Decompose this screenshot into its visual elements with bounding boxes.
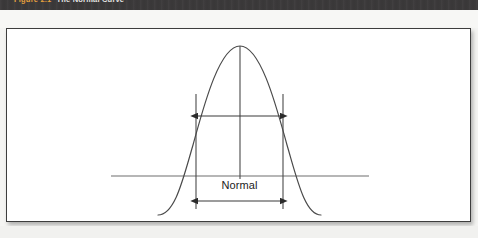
figure-panel: Normal <box>6 28 471 222</box>
figure-number-label: Figure 2.1 <box>14 0 51 4</box>
normal-region-label: Normal <box>221 179 257 191</box>
figure-title-label: The Normal Curve <box>56 0 124 4</box>
page-background: Figure 2.1The Normal Curve <box>0 0 478 238</box>
caption-bar-gap <box>0 10 478 28</box>
normal-curve-diagram <box>7 29 472 223</box>
figure-caption-text: Figure 2.1The Normal Curve <box>14 0 124 7</box>
page-bottom-band <box>0 226 478 238</box>
figure-caption-bar: Figure 2.1The Normal Curve <box>0 0 478 10</box>
normal-region-label-wrapper: Normal <box>7 179 472 191</box>
